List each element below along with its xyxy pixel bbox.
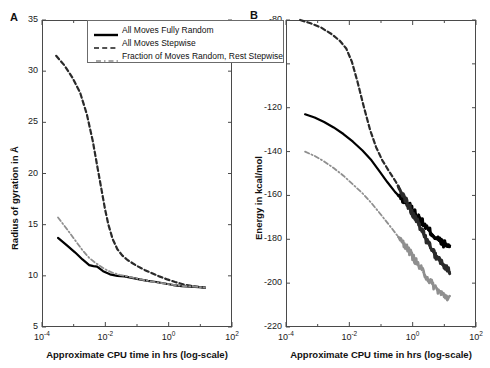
y-tick-label: -160 [254,190,282,199]
x-tick-label: 100 [399,331,427,342]
x-tick-label: 102 [462,331,490,342]
legend-swatch-dashed-icon [93,39,119,49]
panel-a-x-axis-label: Approximate CPU time in hrs (log-scale) [42,350,232,360]
x-tick-label: 10-4 [272,331,300,342]
legend-swatch-solid-icon [93,26,119,36]
x-tick-label: 10-4 [28,331,56,342]
series-line [56,56,205,288]
y-tick-label: -140 [254,147,282,156]
series-line [300,20,450,272]
y-tick-label: 30 [10,66,38,75]
legend-item-2: Fraction of Moves Random, Rest Stepwise [93,50,279,63]
legend-label-1: All Moves Stepwise [122,39,196,48]
panel-a-y-axis-label: Radius of gyration in Å [10,146,20,250]
legend-item-1: All Moves Stepwise [93,37,279,50]
figure-root: A Radius of gyration in Å Approximate CP… [0,0,490,368]
series-noise-band [398,186,449,273]
y-tick-label: -120 [254,103,282,112]
y-tick-label: -220 [254,322,282,331]
panel-b-x-axis-label: Approximate CPU time in hrs (log-scale) [286,350,476,360]
y-tick-label: 10 [10,271,38,280]
legend: All Moves Fully Random All Moves Stepwis… [87,20,284,63]
y-tick-label: 20 [10,169,38,178]
y-tick-label: 35 [10,15,38,24]
y-tick-label: -180 [254,234,282,243]
series-line [58,218,205,288]
y-tick-label: -200 [254,278,282,287]
legend-label-0: All Moves Fully Random [122,26,214,35]
x-tick-label: 10-2 [335,331,363,342]
y-tick-label: 25 [10,117,38,126]
x-tick-label: 102 [218,331,246,342]
y-tick-label: 5 [10,322,38,331]
legend-item-0: All Moves Fully Random [93,24,279,37]
legend-label-2: Fraction of Moves Random, Rest Stepwise [122,52,283,61]
y-tick-label: 15 [10,220,38,229]
x-tick-label: 10-2 [91,331,119,342]
x-tick-label: 100 [155,331,183,342]
legend-swatch-dashdot-icon [93,52,119,62]
